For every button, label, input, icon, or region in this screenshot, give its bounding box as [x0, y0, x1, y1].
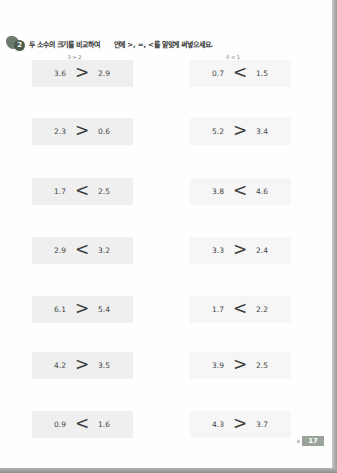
number-b: 3.4 — [256, 127, 268, 136]
page-edge-right — [332, 0, 337, 473]
comparison-symbol[interactable]: > — [233, 354, 247, 374]
number-b: 2.2 — [256, 305, 268, 314]
number-a: 2.3 — [54, 127, 66, 136]
number-b: 3.5 — [98, 361, 110, 370]
page-edge-bottom — [0, 468, 337, 473]
number-b: 3.2 — [98, 246, 110, 255]
instruction: 2 두 소수의 크기를 비교하여 안에 >, =, <를 알맞게 써넣으세요. — [6, 36, 213, 52]
comparison-symbol[interactable]: > — [233, 120, 247, 140]
comparison-box: 2.3 > 0.6 — [32, 118, 133, 145]
comparison-symbol[interactable]: < — [75, 239, 89, 259]
comparison-box: 0.7 < 1.5 — [190, 60, 291, 87]
comparison-box: 3.8 < 4.6 — [190, 178, 291, 205]
number-b: 2.5 — [98, 187, 110, 196]
comparison-symbol[interactable]: < — [75, 180, 89, 200]
comparison-symbol[interactable]: > — [233, 413, 247, 433]
number-b: 0.6 — [98, 127, 110, 136]
problem-number-badge: 2 — [6, 36, 26, 52]
comparison-symbol[interactable]: < — [233, 180, 247, 200]
number-a: 5.2 — [212, 127, 224, 136]
number-a: 3.8 — [212, 187, 224, 196]
comparison-box: 1.7 < 2.5 — [32, 178, 133, 205]
number-a: 0.9 — [54, 420, 66, 429]
comparison-box: 6.1 > 5.4 — [32, 296, 133, 323]
worksheet-page: 2 두 소수의 크기를 비교하여 안에 >, =, <를 알맞게 써넣으세요. … — [0, 0, 332, 468]
instruction-text-before: 두 소수의 크기를 비교하여 — [29, 39, 100, 49]
number-a: 3.6 — [54, 69, 66, 78]
comparison-symbol[interactable]: > — [75, 120, 89, 140]
comparison-box: 0.9 < 1.6 — [32, 411, 133, 438]
comparison-box: 3.6 > 2.9 — [32, 60, 133, 87]
page-number: 17 — [302, 436, 324, 446]
number-b: 4.6 — [256, 187, 268, 196]
comparison-box: 3.9 > 2.5 — [190, 352, 291, 379]
number-a: 3.9 — [212, 361, 224, 370]
number-a: 4.2 — [54, 361, 66, 370]
instruction-text-after: 안에 >, =, <를 알맞게 써넣으세요. — [114, 39, 213, 49]
number-a: 1.7 — [212, 305, 224, 314]
problem-number: 2 — [14, 40, 25, 51]
comparison-box: 5.2 > 3.4 — [190, 118, 291, 145]
comparison-box: 4.3 > 3.7 — [190, 411, 291, 438]
number-a: 3.3 — [212, 246, 224, 255]
number-a: 4.3 — [212, 420, 224, 429]
comparison-symbol[interactable]: > — [75, 62, 89, 82]
comparison-symbol[interactable]: < — [233, 62, 247, 82]
number-a: 6.1 — [54, 305, 66, 314]
comparison-symbol[interactable]: > — [75, 298, 89, 318]
comparison-box: 4.2 > 3.5 — [32, 352, 133, 379]
comparison-box: 2.9 < 3.2 — [32, 237, 133, 264]
number-a: 2.9 — [54, 246, 66, 255]
comparison-symbol[interactable]: > — [75, 354, 89, 374]
number-b: 3.7 — [256, 420, 268, 429]
number-b: 5.4 — [98, 305, 110, 314]
comparison-box: 3.3 > 2.4 — [190, 237, 291, 264]
comparison-symbol[interactable]: < — [233, 298, 247, 318]
number-b: 1.6 — [98, 420, 110, 429]
comparison-symbol[interactable]: > — [233, 239, 247, 259]
number-a: 0.7 — [212, 69, 224, 78]
number-b: 2.4 — [256, 246, 268, 255]
number-b: 2.9 — [98, 69, 110, 78]
comparison-box: 1.7 < 2.2 — [190, 296, 291, 323]
number-b: 1.5 — [256, 69, 268, 78]
number-a: 1.7 — [54, 187, 66, 196]
number-b: 2.5 — [256, 361, 268, 370]
page-number-dot-icon — [297, 440, 300, 443]
comparison-symbol[interactable]: < — [75, 413, 89, 433]
